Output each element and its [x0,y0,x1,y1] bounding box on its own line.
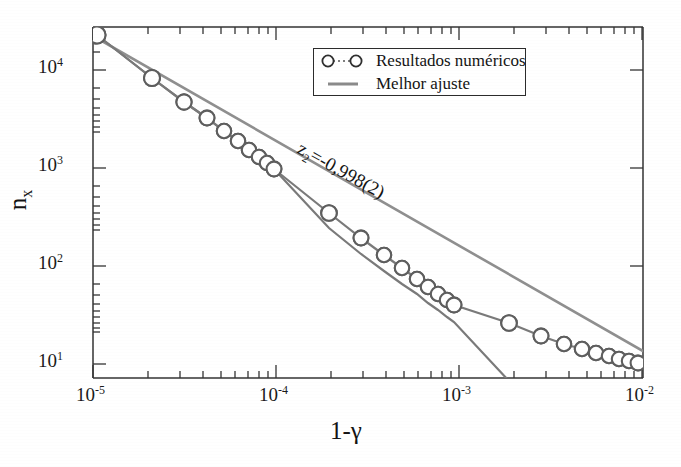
ytick-exp-1: 1 [57,349,63,363]
x-axis-title: 1-γ [330,417,362,445]
xtick-exp-m4: -4 [278,383,288,397]
xtick-label-m2: 10-2 [625,384,654,406]
ytick-exp-4: 4 [57,55,63,69]
xtick-label-m3: 10-3 [442,384,471,406]
xtick-exp-m2: -2 [644,383,654,397]
legend-label-numeric-results: Resultados numéricos [376,51,526,71]
ytick-label-2: 102 [38,252,63,274]
ytick-exp-2: 2 [57,251,63,265]
x-axis-ticks [93,365,642,378]
y-axis-title-sub: x [18,190,35,198]
y-axis-title: nx [4,190,32,211]
legend-item-best-fit: Melhor ajuste [314,72,525,96]
ytick-exp-3: 3 [57,153,63,167]
xtick-exp-m5: -5 [95,383,105,397]
ytick-label-1: 101 [38,350,63,372]
figure-canvas: 104 103 102 101 10-5 10-4 10-3 10-2 nx 1… [0,0,681,467]
y-axis-ticks [93,40,106,364]
ytick-label-4: 104 [38,56,63,78]
legend: Resultados numéricos Melhor ajuste [313,48,526,96]
legend-item-numeric-results: Resultados numéricos [314,49,525,73]
xtick-label-m4: 10-4 [259,384,288,406]
ytick-label-3: 103 [38,154,63,176]
legend-symbol-open-circle-pair [314,50,376,72]
y-axis-ticks-right [630,70,643,364]
xtick-exp-m3: -3 [461,383,471,397]
x-axis-ticks-top [93,27,642,40]
legend-symbol-solid-line [314,73,376,95]
x-axis-title-text: 1-γ [330,417,362,444]
y-axis-title-base: n [4,198,31,211]
legend-label-best-fit: Melhor ajuste [376,74,470,94]
xtick-label-m5: 10-5 [76,384,105,406]
